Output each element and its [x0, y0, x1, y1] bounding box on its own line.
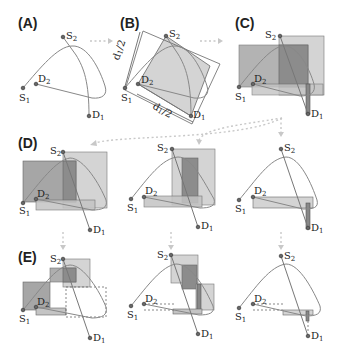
- panel-label-b: (B): [120, 15, 139, 31]
- arrow-b-to-c: [200, 38, 223, 44]
- node-s1-label: S1: [235, 203, 246, 216]
- node-d1-label: D1: [311, 222, 324, 235]
- box-overlap: [279, 45, 308, 87]
- panel-d-right: S1 S2 D1 D2: [235, 142, 324, 235]
- panel-d-left: (D) S1 S2 D1 D2: [18, 135, 107, 237]
- panel-label-c: (C): [235, 15, 254, 31]
- panel-a: (A) S1 S2 D1 D2: [18, 15, 106, 122]
- node-d1-label: D1: [201, 220, 214, 233]
- node-d1-label: D1: [92, 109, 105, 122]
- node-s1-label: S1: [127, 202, 138, 215]
- node-s2-label: S2: [157, 142, 168, 155]
- node-s1-label: S1: [235, 91, 246, 104]
- panel-c: (C) S1 S2 D1 D2: [235, 15, 324, 121]
- panel-d-middle: S1 S2 D1 D2: [127, 142, 215, 233]
- node-s2-label: S2: [265, 29, 276, 42]
- panel-label-d: (D): [18, 135, 37, 151]
- node-d1-label: D1: [93, 332, 106, 345]
- node-s1-label: S1: [19, 313, 30, 326]
- panel-label-e: (E): [18, 249, 37, 265]
- node-s1-point: [21, 86, 25, 90]
- panel-e-left: (E) S1 S2 D1 D2: [18, 249, 106, 345]
- panel-label-a: (A): [18, 15, 37, 31]
- node-d1-label: D1: [201, 328, 214, 341]
- node-s2-label: S2: [284, 142, 295, 155]
- annotation-d1-half-left: d1/2: [110, 38, 128, 61]
- node-s2-label: S2: [50, 145, 61, 158]
- arrows-c-to-d: [90, 118, 284, 146]
- node-s1-label: S1: [19, 205, 30, 218]
- node-d2-label: D2: [145, 293, 158, 306]
- node-d1-label: D1: [93, 224, 106, 237]
- node-s2-label: S2: [66, 30, 77, 43]
- node-s2-point: [61, 35, 65, 39]
- node-s1-label: S1: [235, 311, 246, 324]
- node-s2-label: S2: [284, 250, 295, 263]
- node-d2-label: D2: [254, 185, 267, 198]
- node-s1-label: S1: [19, 92, 30, 105]
- node-d1-label: D1: [193, 109, 206, 122]
- panel-b: (B) S1 S2 D1 D2 d1/2 d1/2: [110, 15, 220, 124]
- node-s1-label: S1: [121, 92, 132, 105]
- diagram-canvas: (A) S1 S2 D1 D2 (B) S1 S2 D1 D2 d1/2 d1/…: [0, 0, 343, 355]
- node-d1-point: [87, 114, 91, 118]
- node-s1-label: S1: [127, 309, 138, 322]
- node-s2-label: S2: [157, 249, 168, 262]
- node-d1-label: D1: [311, 330, 324, 343]
- node-s2-label: S2: [50, 253, 61, 266]
- node-d1-label: D1: [311, 108, 324, 121]
- panel-e-right: S1 S2 D1 D2: [235, 250, 324, 343]
- arrow-a-to-b: [90, 38, 113, 44]
- node-d2-label: D2: [38, 73, 51, 86]
- node-d2-label: D2: [254, 293, 267, 306]
- panel-e-middle: S1 S2 D1 D2: [127, 249, 214, 341]
